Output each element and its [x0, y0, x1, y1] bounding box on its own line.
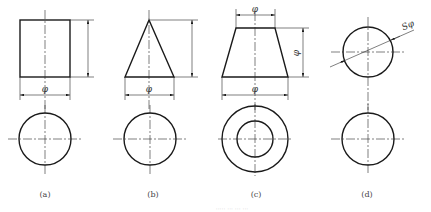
cone-front-view: φ	[125, 10, 198, 110]
top-diameter-symbol: φ	[252, 4, 259, 14]
view-label-a: (a)	[39, 190, 50, 199]
view-label-d: (d)	[361, 190, 372, 199]
frustum-front-view: φ φ φ	[222, 4, 309, 110]
view-b-cone: φ (b)	[113, 10, 198, 199]
diameter-symbol: φ	[146, 84, 153, 94]
view-c-truncated-cone: φ φ φ (c)	[218, 4, 309, 199]
diameter-symbol: φ	[42, 84, 49, 94]
cylinder-top-view	[8, 105, 82, 175]
sphere-front-view: Sφ	[330, 17, 416, 110]
view-label-c: (c)	[251, 190, 262, 199]
view-label-b: (b)	[147, 190, 158, 199]
cone-top-view	[113, 105, 187, 175]
view-a-cylinder: φ (a)	[8, 10, 94, 199]
cylinder-front-view: φ	[20, 10, 94, 110]
side-dimension-symbol: φ	[291, 49, 301, 56]
sphere-top-view	[331, 104, 405, 175]
bottom-diameter-symbol: φ	[252, 84, 259, 94]
solids-dimensioning-figure: φ (a) φ (b)	[0, 0, 431, 212]
frustum-top-view	[218, 104, 292, 176]
figure-caption: ····· ··· ··· ···	[216, 205, 249, 212]
view-d-sphere: Sφ (d)	[330, 17, 416, 199]
